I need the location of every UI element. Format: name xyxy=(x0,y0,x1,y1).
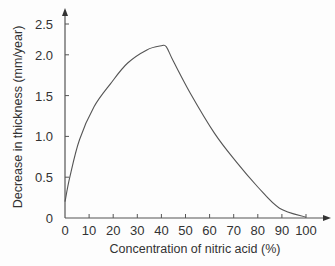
x-tick-label: 70 xyxy=(226,223,240,238)
x-tick-label: 40 xyxy=(154,223,168,238)
y-axis-label: Decrease in thickness (mm/year) xyxy=(11,26,25,209)
x-tick-label: 10 xyxy=(82,223,96,238)
y-axis-arrow-icon xyxy=(62,8,68,16)
x-tick-label: 60 xyxy=(202,223,216,238)
x-tick-label: 90 xyxy=(275,223,289,238)
y-tick-label: 1.0 xyxy=(35,129,53,144)
x-tick-label: 50 xyxy=(178,223,192,238)
x-tick-label: 100 xyxy=(295,223,317,238)
x-tick-label: 0 xyxy=(61,223,68,238)
x-tick-label: 80 xyxy=(251,223,265,238)
chart: 010203040506070809010000.51.01.52.02.5 C… xyxy=(0,0,335,266)
y-tick-label: 2.5 xyxy=(35,17,53,32)
x-axis-label: Concentration of nitric acid (%) xyxy=(110,242,281,256)
y-tick-label: 2.0 xyxy=(35,48,53,63)
y-tick-label: 0.5 xyxy=(35,170,53,185)
y-tick-label: 1.5 xyxy=(35,89,53,104)
x-axis-arrow-icon xyxy=(323,215,331,221)
x-tick-label: 20 xyxy=(106,223,120,238)
y-tick-label: 0 xyxy=(46,211,53,226)
axes xyxy=(62,8,331,221)
data-line xyxy=(65,45,306,217)
x-tick-label: 30 xyxy=(130,223,144,238)
plot-area: 010203040506070809010000.51.01.52.02.5 C… xyxy=(0,0,335,266)
